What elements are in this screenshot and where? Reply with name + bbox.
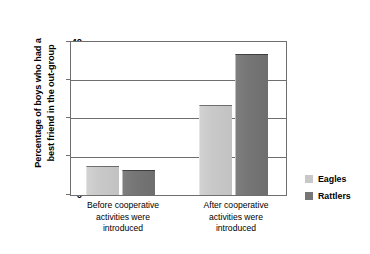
legend-item-eagles[interactable]: Eagles: [305, 172, 351, 186]
x-category-after-line-1: After cooperative: [186, 200, 286, 212]
bar-rattlers-after[interactable]: [235, 54, 268, 195]
chart-legend: Eagles Rattlers: [305, 172, 351, 206]
x-category-after-line-2: activities were: [186, 212, 286, 224]
bar-rattlers-before[interactable]: [122, 170, 155, 195]
x-category-before-line-3: introduced: [73, 223, 173, 235]
bar-eagles-before[interactable]: [86, 166, 119, 195]
legend-swatch-rattlers-icon: [305, 192, 313, 200]
y-axis-title-line-2: best friend in the out-group: [44, 38, 57, 167]
bar-body: [86, 166, 119, 195]
bar-body: [199, 105, 232, 195]
bar-eagles-after[interactable]: [199, 105, 232, 195]
legend-label-rattlers: Rattlers: [318, 192, 351, 201]
y-axis-title-line-1: Percentage of boys who had a: [32, 38, 45, 167]
plot-area: [70, 41, 287, 196]
legend-label-eagles: Eagles: [318, 175, 346, 184]
legend-item-rattlers[interactable]: Rattlers: [305, 189, 351, 203]
x-category-label-after: After cooperative activities were introd…: [186, 200, 286, 235]
x-category-after-line-3: introduced: [186, 223, 286, 235]
x-category-before-line-2: activities were: [73, 212, 173, 224]
x-category-label-before: Before cooperative activities were intro…: [73, 200, 173, 235]
legend-swatch-eagles-icon: [305, 175, 313, 183]
bar-body: [122, 170, 155, 195]
bar-body: [235, 54, 268, 195]
bar-chart-figure: Percentage of boys who had a best friend…: [0, 0, 370, 254]
x-category-before-line-1: Before cooperative: [73, 200, 173, 212]
